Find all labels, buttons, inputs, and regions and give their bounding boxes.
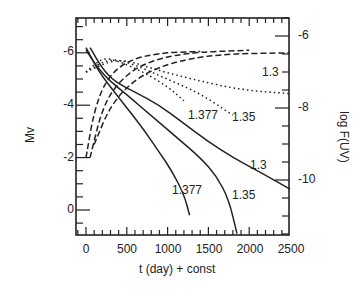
x-tick-label: 1000 xyxy=(148,242,188,256)
curve-label-solid-13: 1.3 xyxy=(250,158,267,172)
curve-label-solid-1377: 1.377 xyxy=(172,183,202,197)
y-left-tick-label: -6 xyxy=(44,44,74,58)
x-tick-label: 500 xyxy=(107,242,147,256)
y-left-tick-label: 0 xyxy=(44,202,74,216)
x-tick-label: 2000 xyxy=(230,242,270,256)
curve-label-solid-135: 1.35 xyxy=(232,188,255,202)
y-right-tick-label: -8 xyxy=(298,100,309,114)
x-tick-label: 0 xyxy=(66,242,106,256)
plot-frame xyxy=(76,18,289,235)
y-left-tick-label: -2 xyxy=(44,150,74,164)
x-axis-label: t (day) + const xyxy=(139,262,215,276)
curve-label-dotted-13: 1.3 xyxy=(262,65,279,79)
x-tick-label: 1500 xyxy=(189,242,229,256)
y-right-tick-label: -6 xyxy=(298,28,309,42)
x-tick-label: 2500 xyxy=(271,242,311,256)
curve-dashed xyxy=(94,53,290,145)
data-curves xyxy=(86,48,290,234)
axis-ticks xyxy=(76,18,289,235)
curve-dotted xyxy=(86,61,290,94)
y-left-tick-label: -4 xyxy=(44,97,74,111)
curve-label-dotted-135: 1.35 xyxy=(232,110,255,124)
curve-label-dotted-1377: 1.377 xyxy=(188,108,218,122)
y-right-tick-label: -10 xyxy=(298,172,315,186)
y-right-axis-label: log F(UV) xyxy=(337,111,351,162)
y-left-axis-label: Mv xyxy=(23,127,37,143)
